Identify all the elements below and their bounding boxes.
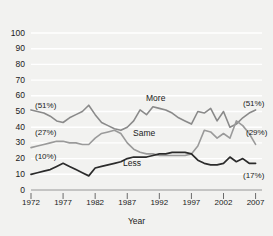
x-tick-1992: 1992 <box>144 198 174 207</box>
y-tick-0: 0 <box>1 186 25 195</box>
end-annotation-less: (17%) <box>243 171 264 180</box>
y-tick-80: 80 <box>1 60 25 69</box>
y-tick-10: 10 <box>1 170 25 179</box>
chart-container: Percentage 0102030405060708090100 197219… <box>0 0 273 236</box>
x-tick-1982: 1982 <box>80 198 110 207</box>
series-label-more: More <box>146 93 165 103</box>
y-tick-30: 30 <box>1 138 25 147</box>
end-annotation-more: (51%) <box>243 99 264 108</box>
start-annotation-more: (51%) <box>35 101 56 110</box>
y-tick-20: 20 <box>1 154 25 163</box>
series-label-less: Less <box>123 158 141 168</box>
end-annotation-same: (29%) <box>246 128 267 137</box>
x-tick-2002: 2002 <box>209 198 239 207</box>
y-tick-70: 70 <box>1 76 25 85</box>
x-tick-1987: 1987 <box>112 198 142 207</box>
y-tick-40: 40 <box>1 123 25 132</box>
x-tick-2007: 2007 <box>241 198 271 207</box>
start-annotation-same: (27%) <box>35 128 56 137</box>
x-tick-1977: 1977 <box>48 198 78 207</box>
x-tick-1972: 1972 <box>16 198 46 207</box>
y-tick-100: 100 <box>1 29 25 38</box>
x-axis-title: Year <box>0 216 273 226</box>
series-label-same: Same <box>133 128 155 138</box>
y-tick-50: 50 <box>1 107 25 116</box>
x-tick-1997: 1997 <box>176 198 206 207</box>
start-annotation-less: (10%) <box>35 152 56 161</box>
y-tick-90: 90 <box>1 44 25 53</box>
y-tick-60: 60 <box>1 91 25 100</box>
